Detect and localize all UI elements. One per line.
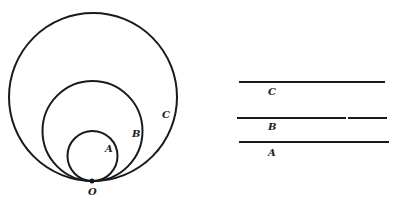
origin-point — [90, 179, 95, 184]
right-panel-lines: C B A — [237, 82, 389, 158]
origin-label: O — [88, 186, 97, 197]
line-b-label: B — [267, 121, 276, 132]
figure: C B A O C B A — [0, 0, 399, 200]
circle-a — [68, 131, 118, 181]
line-a-label: A — [267, 147, 276, 158]
circle-b-label: B — [131, 128, 140, 139]
circle-a-label: A — [104, 143, 113, 154]
circle-c-label: C — [162, 109, 170, 120]
circle-c — [9, 13, 177, 181]
line-c-label: C — [268, 86, 276, 97]
left-panel-circles: C B A O — [9, 13, 177, 197]
